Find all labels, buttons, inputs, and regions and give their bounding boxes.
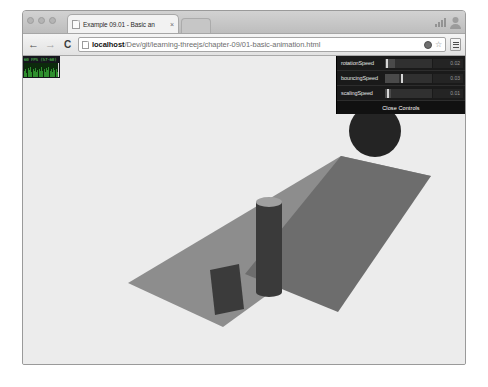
screenshot-root: Example 09.01 - Basic an × ← → [0,0,488,387]
datgui-label-bouncingSpeed: bouncingSpeed [337,75,385,81]
omnibox-actions: ☆ [421,41,442,49]
datgui-label-scalingSpeed: scalingSpeed [337,90,385,96]
fps-graph [24,63,59,77]
close-window-button[interactable] [49,17,56,24]
browser-window: Example 09.01 - Basic an × ← → [22,10,466,365]
fps-label: 60 FPS (57-60) [24,57,57,62]
datgui-row-bouncingSpeed[interactable]: bouncingSpeed 0.03 [337,71,465,86]
address-bar[interactable]: localhost/Dev/git/learning-threejs/chapt… [78,37,446,52]
signal-icon [435,18,446,27]
maximize-button[interactable] [38,17,45,24]
page-info-icon[interactable] [82,41,89,49]
datgui-value-scalingSpeed[interactable]: 0.01 [433,89,463,98]
tab-favicon-icon [72,20,80,29]
datgui-panel[interactable]: rotationSpeed 0.02 bouncingSpeed 0.03 [336,56,465,114]
cylinder-cap [256,197,282,207]
url-host: localhost [92,40,124,49]
page-action-icon[interactable] [424,41,432,49]
datgui-slider-scalingSpeed[interactable] [385,89,432,98]
browser-navbar: ← → C localhost/Dev/git/learning-threejs… [23,34,465,56]
minimize-button[interactable] [27,17,34,24]
datgui-value-rotationSpeed[interactable]: 0.02 [433,59,463,68]
forward-button[interactable]: → [44,38,57,52]
cylinder-body [256,202,282,297]
datgui-row-scalingSpeed[interactable]: scalingSpeed 0.01 [337,86,465,101]
titlebar-right-cluster [422,12,462,32]
url-path: /Dev/git/learning-threejs/chapter-09/01-… [124,40,320,49]
window-controls [27,17,56,24]
datgui-slider-rotationSpeed[interactable] [385,59,432,68]
datgui-value-bouncingSpeed[interactable]: 0.03 [433,74,463,83]
datgui-label-rotationSpeed: rotationSpeed [337,60,385,66]
user-avatar-icon[interactable] [449,16,462,29]
new-tab-button[interactable] [181,18,211,33]
reload-button[interactable]: C [61,38,74,52]
browser-tab-active[interactable]: Example 09.01 - Basic an × [67,14,179,33]
url-text: localhost/Dev/git/learning-threejs/chapt… [92,40,320,49]
stats-fps-meter: 60 FPS (57-60) [23,56,60,78]
cube-mesh [210,264,244,315]
tab-title: Example 09.01 - Basic an [83,21,168,28]
back-button[interactable]: ← [27,38,40,52]
tab-close-icon[interactable]: × [168,21,174,28]
chrome-menu-icon[interactable] [450,38,461,51]
bookmark-star-icon[interactable]: ☆ [435,41,442,49]
browser-tabstrip: Example 09.01 - Basic an × [23,11,465,34]
datgui-slider-bouncingSpeed[interactable] [385,74,432,83]
webgl-viewport[interactable]: 60 FPS (57-60) [23,56,465,365]
datgui-close-controls-button[interactable]: Close Controls [337,101,465,114]
datgui-row-rotationSpeed[interactable]: rotationSpeed 0.02 [337,56,465,71]
